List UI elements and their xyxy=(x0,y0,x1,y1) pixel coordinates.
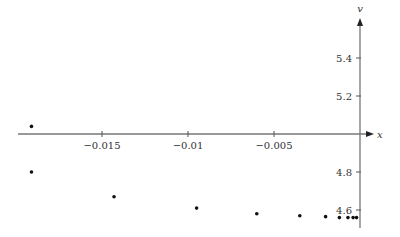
data-point xyxy=(30,125,34,129)
data-point xyxy=(298,214,302,218)
x-tick-label: −0.005 xyxy=(255,140,292,151)
y-axis-label: v xyxy=(357,3,363,14)
data-point xyxy=(255,212,259,216)
data-point xyxy=(195,206,199,210)
data-point xyxy=(324,215,328,219)
data-points xyxy=(30,125,359,220)
x-axis-label: x xyxy=(377,129,383,140)
data-point xyxy=(346,216,350,220)
x-axis-arrow-icon xyxy=(366,131,374,137)
y-tick-label: 5.2 xyxy=(336,91,352,102)
x-tick-label: −0.01 xyxy=(173,140,204,151)
data-point xyxy=(112,195,116,199)
axes xyxy=(18,18,374,228)
y-tick-label: 5.4 xyxy=(336,53,352,64)
scatter-chart: −0.015−0.01−0.0055.45.24.84.6 x v xyxy=(0,0,400,237)
data-point xyxy=(30,170,34,174)
y-axis-arrow-icon xyxy=(357,18,363,26)
data-point xyxy=(338,216,342,220)
data-point xyxy=(355,216,359,220)
data-point xyxy=(351,216,355,220)
y-tick-label: 4.6 xyxy=(336,205,352,216)
y-tick-label: 4.8 xyxy=(336,167,352,178)
x-tick-label: −0.015 xyxy=(83,140,120,151)
